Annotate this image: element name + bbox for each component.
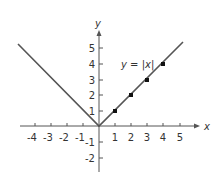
x-axis-arrow-icon bbox=[194, 124, 200, 129]
function-label: y = |x| bbox=[120, 59, 154, 71]
svg-text:-1: -1 bbox=[85, 137, 95, 148]
svg-text:5: 5 bbox=[89, 43, 95, 54]
svg-text:5: 5 bbox=[177, 132, 183, 143]
x-axis-label: x bbox=[203, 121, 210, 132]
svg-text:-2: -2 bbox=[85, 153, 95, 164]
x-tick-labels: -4 -3 -2 -1 1 2 3 4 5 bbox=[27, 132, 183, 143]
svg-text:4: 4 bbox=[89, 59, 95, 70]
svg-text:-1: -1 bbox=[75, 132, 85, 143]
y-ticks bbox=[99, 48, 103, 158]
svg-text:-4: -4 bbox=[27, 132, 37, 143]
svg-text:4: 4 bbox=[160, 132, 166, 143]
y-axis-label: y bbox=[94, 18, 102, 29]
svg-text:3: 3 bbox=[89, 75, 95, 86]
abs-value-line bbox=[18, 42, 183, 126]
y-tick-labels: -2 -1 1 2 3 4 5 bbox=[85, 43, 95, 164]
svg-text:1: 1 bbox=[112, 132, 118, 143]
svg-text:3: 3 bbox=[144, 132, 150, 143]
y-axis-arrow-icon bbox=[97, 30, 102, 36]
abs-value-graph: x y -4 -3 -2 -1 1 2 3 4 5 -2 -1 bbox=[0, 0, 220, 179]
svg-text:-3: -3 bbox=[43, 132, 53, 143]
svg-text:2: 2 bbox=[128, 132, 134, 143]
svg-text:-2: -2 bbox=[59, 132, 69, 143]
svg-text:2: 2 bbox=[89, 90, 95, 101]
